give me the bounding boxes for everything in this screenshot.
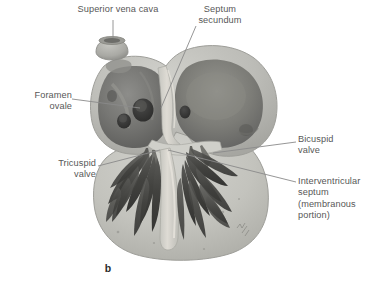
anatomical-figure: Superior vena cava Septum secundum Foram… bbox=[0, 0, 368, 284]
label-bicuspid-valve: Bicuspid valve bbox=[298, 134, 366, 157]
label-tricuspid-valve: Tricuspid valve bbox=[14, 158, 96, 181]
superior-vena-cava-stub bbox=[96, 37, 128, 61]
label-interventricular-septum: Interventricular septum (membranous port… bbox=[298, 176, 368, 222]
label-septum-secundum: Septum secundum bbox=[166, 4, 274, 27]
figure-caption: b bbox=[98, 262, 118, 274]
label-foramen-ovale: Foramen ovale bbox=[2, 90, 72, 113]
label-superior-vena-cava: Superior vena cava bbox=[56, 4, 180, 15]
